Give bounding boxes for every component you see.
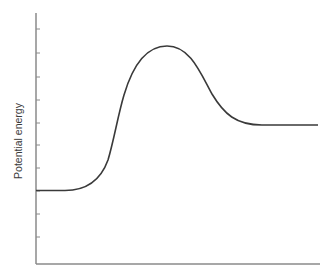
y-axis-label: Potential energy [12, 103, 24, 179]
energy-diagram [0, 0, 332, 280]
energy-curve [36, 46, 318, 191]
y-axis [36, 13, 40, 264]
